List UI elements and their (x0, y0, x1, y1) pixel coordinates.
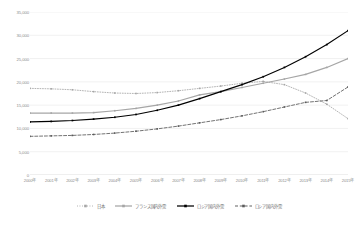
plot-area (30, 12, 348, 175)
y-axis-tick-label: 25,000 (1, 56, 29, 61)
data-point-marker (347, 58, 348, 60)
data-point-marker (93, 91, 95, 93)
data-point-marker (284, 84, 286, 86)
data-point-marker (156, 109, 158, 111)
data-point-marker (93, 134, 95, 136)
data-point-marker (135, 114, 137, 116)
data-point-marker (305, 102, 307, 104)
x-axis-tick-label: 2001年 (45, 177, 57, 183)
data-point-marker (284, 78, 286, 80)
data-point-marker (326, 44, 328, 46)
x-axis-tick-label: 2011年 (257, 177, 269, 183)
data-point-marker (156, 104, 158, 106)
legend-item-1[interactable]: フランス国内外需 (115, 203, 166, 209)
legend-swatch-icon (177, 203, 194, 209)
chart-legend: 日本フランス国内外需ロシア国内外需ロシア国内外需 (0, 203, 359, 209)
series-line (30, 59, 348, 113)
data-point-marker (93, 112, 95, 114)
x-axis-tick-label: 2007年 (172, 177, 184, 183)
series-3 (30, 86, 348, 137)
data-point-marker (326, 100, 328, 102)
data-point-marker (50, 121, 52, 123)
data-point-marker (135, 108, 137, 110)
y-axis-tick-label: 5,000 (1, 149, 29, 154)
x-axis-tick-label: 2002年 (66, 177, 78, 183)
data-point-marker (178, 125, 180, 127)
data-point-marker (72, 112, 74, 114)
data-point-marker (30, 136, 31, 138)
data-point-marker (305, 56, 307, 58)
y-axis-tick-label: 35,000 (1, 10, 29, 15)
data-point-marker (199, 122, 201, 124)
data-point-marker (30, 121, 31, 123)
data-point-marker (114, 116, 116, 118)
data-point-marker (178, 104, 180, 106)
data-point-marker (262, 111, 264, 113)
data-point-marker (262, 76, 264, 78)
chart-svg (30, 12, 348, 175)
y-axis-tick-label: 10,000 (1, 126, 29, 131)
x-axis-tick-label: 2000年 (24, 177, 36, 183)
y-axis-tick-label: 30,000 (1, 33, 29, 38)
series-1 (30, 58, 348, 114)
x-axis-tick-label: 2008年 (193, 177, 205, 183)
legend-item-0[interactable]: 日本 (77, 203, 104, 209)
data-point-marker (50, 88, 52, 90)
data-point-marker (156, 92, 158, 94)
legend-label: フランス国内外需 (135, 203, 166, 209)
data-point-marker (30, 112, 31, 114)
data-point-marker (241, 84, 243, 86)
data-point-marker (347, 118, 348, 120)
data-point-marker (284, 106, 286, 108)
data-point-marker (50, 135, 52, 137)
y-axis-tick-label: 15,000 (1, 103, 29, 108)
data-point-marker (241, 115, 243, 117)
legend-swatch-icon (235, 203, 252, 209)
data-point-marker (178, 100, 180, 102)
x-axis-tick-label: 2012年 (278, 177, 290, 183)
data-point-marker (220, 119, 222, 121)
chart-container: 35,00030,00025,00020,00015,00010,0005,00… (0, 0, 359, 225)
x-axis-tick-label: 2010年 (236, 177, 248, 183)
data-point-marker (326, 103, 328, 105)
data-point-marker (347, 86, 348, 88)
x-axis-tick-label: 2013年 (299, 177, 311, 183)
series-2 (30, 30, 348, 123)
data-point-marker (156, 128, 158, 130)
data-point-marker (199, 94, 201, 96)
x-axis-tick-label: 2006年 (151, 177, 163, 183)
x-axis-tick-label: 2004年 (109, 177, 121, 183)
data-point-marker (241, 87, 243, 89)
data-point-marker (347, 30, 348, 32)
legend-label: ロシア国内外需 (255, 203, 282, 209)
legend-swatch-icon (115, 203, 132, 209)
series-0 (30, 81, 348, 120)
data-point-marker (93, 118, 95, 120)
data-point-marker (220, 85, 222, 87)
x-axis-tick-label: 2009年 (215, 177, 227, 183)
x-axis: 2000年2001年2002年2003年2004年2005年2006年2007年… (30, 177, 348, 189)
y-axis-tick-label: 20,000 (1, 79, 29, 84)
data-point-marker (72, 135, 74, 137)
data-point-marker (30, 88, 31, 90)
legend-swatch-icon (77, 203, 94, 209)
data-point-marker (135, 130, 137, 132)
data-point-marker (114, 110, 116, 112)
data-point-marker (199, 88, 201, 90)
series-line (30, 31, 348, 122)
data-point-marker (305, 74, 307, 76)
data-point-marker (220, 91, 222, 93)
data-point-marker (262, 81, 264, 83)
data-point-marker (72, 120, 74, 122)
x-axis-tick-label: 2003年 (87, 177, 99, 183)
y-axis: 35,00030,00025,00020,00015,00010,0005,00… (0, 12, 29, 175)
legend-item-2[interactable]: ロシア国内外需 (177, 203, 224, 209)
data-point-marker (178, 90, 180, 92)
x-axis-tick-label: 2015年 (342, 177, 354, 183)
data-point-marker (114, 132, 116, 134)
legend-item-3[interactable]: ロシア国内外需 (235, 203, 282, 209)
data-point-marker (326, 67, 328, 69)
series-line (30, 87, 348, 136)
data-point-marker (135, 93, 137, 95)
data-point-marker (199, 98, 201, 100)
